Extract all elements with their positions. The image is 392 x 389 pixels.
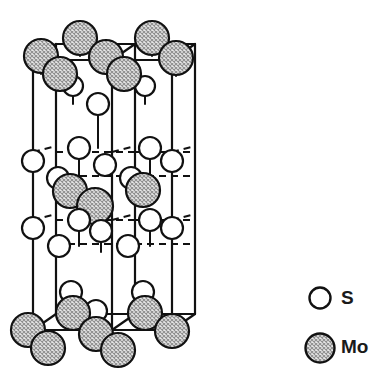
- atom-mo-circle: [107, 57, 141, 91]
- legend-label-mo: Mo: [341, 337, 368, 356]
- atom-mo-circle: [43, 57, 77, 91]
- atom-s: [90, 220, 112, 242]
- atom-mo: [43, 57, 77, 91]
- atom-s-circle: [22, 217, 44, 239]
- atom-mo-circle: [101, 333, 135, 367]
- atom-mo: [31, 331, 65, 365]
- atom-s: [161, 150, 183, 172]
- atom-s-circle: [87, 93, 109, 115]
- atom-mo: [155, 314, 189, 348]
- atom-s-circle: [68, 209, 90, 231]
- atom-s: [139, 137, 161, 159]
- legend-marker-s: [310, 288, 331, 309]
- atom-s-circle: [94, 154, 116, 176]
- atom-s: [139, 209, 161, 231]
- atom-s: [117, 235, 139, 257]
- atom-s-circle: [161, 150, 183, 172]
- atom-s: [68, 137, 90, 159]
- atom-mo: [101, 333, 135, 367]
- atom-mo-circle: [31, 331, 65, 365]
- legend-markers: [306, 288, 335, 363]
- legend-marker-mo: [306, 334, 335, 363]
- atom-s-circle: [161, 217, 183, 239]
- figure-root: S Mo: [0, 0, 392, 389]
- atom-s-circle: [48, 235, 70, 257]
- atom-s-circle: [68, 137, 90, 159]
- atom-s-circle: [22, 150, 44, 172]
- atom-s-circle: [139, 209, 161, 231]
- atom-s: [22, 217, 44, 239]
- atom-s-circle: [117, 235, 139, 257]
- atom-s-circle: [139, 137, 161, 159]
- atom-mo-circle: [159, 41, 193, 75]
- atom-mo-circle: [126, 173, 160, 207]
- atom-s-circle: [90, 220, 112, 242]
- atom-mo: [159, 41, 193, 75]
- atom-s: [87, 93, 109, 115]
- atom-s: [68, 209, 90, 231]
- atom-s: [161, 217, 183, 239]
- atom-mo: [107, 57, 141, 91]
- atom-s: [48, 235, 70, 257]
- atom-mo-circle: [155, 314, 189, 348]
- atom-layer: [11, 21, 193, 367]
- legend-label-s: S: [341, 288, 354, 307]
- atom-mo: [126, 173, 160, 207]
- crystal-structure-diagram: [0, 0, 392, 389]
- atom-s: [94, 154, 116, 176]
- atom-s: [22, 150, 44, 172]
